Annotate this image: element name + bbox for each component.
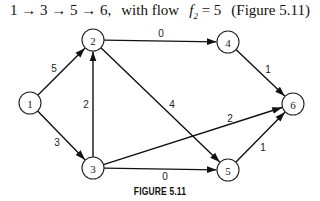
figure-caption: FIGURE 5.11 — [24, 186, 296, 197]
arrow-icon — [38, 111, 85, 160]
node-label: 3 — [90, 163, 96, 175]
edge-label-4-6: 1 — [265, 64, 271, 75]
edge-label-3-5: 0 — [162, 171, 168, 182]
edge-label-3-6: 2 — [227, 113, 233, 124]
node-6: 6 — [282, 93, 304, 115]
node-4: 4 — [217, 31, 239, 53]
node-label: 4 — [225, 37, 231, 49]
edge-3-to-6 — [103, 108, 282, 165]
arrow-icon — [38, 48, 85, 95]
node-label: 2 — [90, 35, 96, 47]
arrow-icon — [101, 48, 220, 162]
arrow-icon — [104, 40, 217, 42]
edge-label-1-3: 3 — [54, 137, 60, 148]
edge-2-to-5 — [101, 48, 220, 162]
node-1: 1 — [19, 92, 41, 114]
edges-layer — [38, 40, 285, 170]
node-label: 6 — [290, 99, 296, 111]
node-2: 2 — [82, 29, 104, 51]
edge-3-to-5 — [104, 168, 217, 170]
node-3: 3 — [82, 157, 104, 179]
edge-1-to-3 — [38, 111, 85, 160]
network-graph: 532042011 123456 — [0, 0, 320, 201]
edge-label-1-2: 5 — [51, 63, 57, 74]
node-label: 1 — [27, 98, 33, 110]
edge-label-2-4: 0 — [158, 28, 164, 39]
arrow-icon — [236, 50, 285, 96]
edge-label-5-6: 1 — [260, 142, 266, 153]
edge-label-3-2: 2 — [83, 99, 89, 110]
edge-2-to-4 — [104, 40, 217, 42]
node-label: 5 — [225, 165, 231, 177]
arrow-icon — [104, 168, 217, 170]
node-5: 5 — [217, 159, 239, 181]
arrow-icon — [103, 108, 282, 165]
edge-4-to-6 — [236, 50, 285, 96]
edge-label-2-5: 4 — [169, 99, 175, 110]
edge-1-to-2 — [38, 48, 85, 95]
